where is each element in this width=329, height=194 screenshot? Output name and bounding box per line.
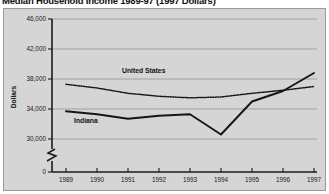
x-tick-label-1991: 1991 xyxy=(121,176,136,183)
chart-figure: Median Household Income 1989-97 (1997 Do… xyxy=(0,0,329,194)
x-axis: 1989 1990 1991 1992 1993 1994 1995 1996 … xyxy=(52,168,322,183)
y-tick-label-42000: 42,000 xyxy=(26,45,46,52)
series-line-indiana xyxy=(66,73,314,135)
y-tick-label-38000: 38,000 xyxy=(26,75,46,82)
x-tick-label-1993: 1993 xyxy=(183,176,198,183)
series-label-indiana: Indiana xyxy=(74,117,98,124)
y-tick-label-34000: 34,000 xyxy=(26,105,46,112)
x-tick-label-1995: 1995 xyxy=(245,176,260,183)
y-tick-label-30000: 30,000 xyxy=(26,135,46,142)
y-axis: 46,000 42,000 38,000 34,000 30,000 0 xyxy=(26,15,56,175)
x-tick-label-1997: 1997 xyxy=(307,176,322,183)
chart-title: Median Household Income 1989-97 (1997 Do… xyxy=(2,0,327,6)
series-label-united-states: United States xyxy=(122,67,166,74)
x-tick-label-1994: 1994 xyxy=(214,176,229,183)
x-tick-label-1996: 1996 xyxy=(276,176,291,183)
y-axis-title: Dollars xyxy=(10,85,17,108)
y-tick-label-0: 0 xyxy=(42,168,46,175)
series-line-united-states xyxy=(66,84,314,98)
plot-svg: 46,000 42,000 38,000 34,000 30,000 0 Dol… xyxy=(4,9,325,190)
x-tick-label-1989: 1989 xyxy=(59,176,74,183)
y-axis-break-icon xyxy=(47,149,56,161)
x-tick-label-1992: 1992 xyxy=(152,176,167,183)
plot-frame: 46,000 42,000 38,000 34,000 30,000 0 Dol… xyxy=(3,8,326,191)
y-tick-label-46000: 46,000 xyxy=(26,15,46,22)
x-tick-label-1990: 1990 xyxy=(90,176,105,183)
